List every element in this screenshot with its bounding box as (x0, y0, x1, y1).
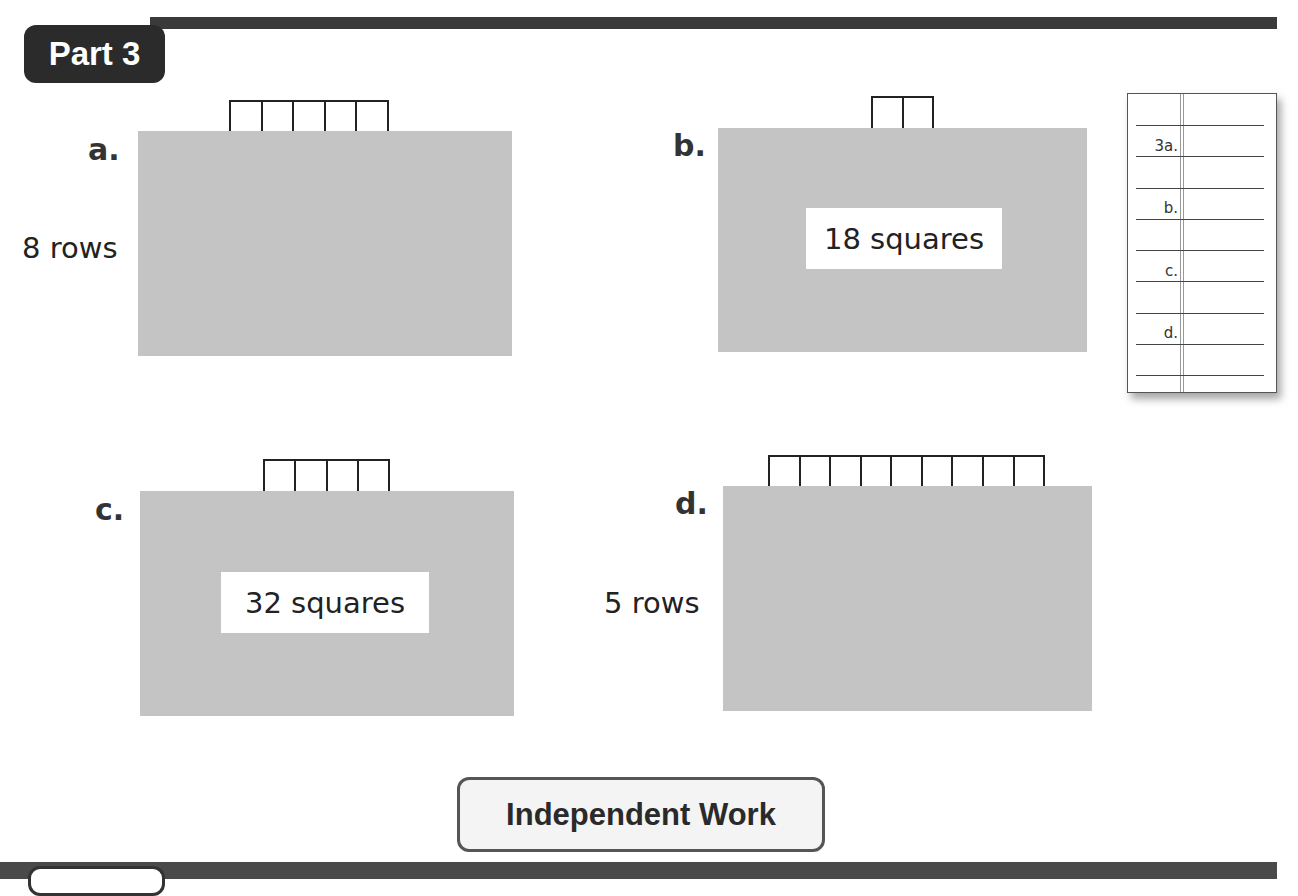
footer-rule (0, 862, 1277, 879)
answer-line (1136, 344, 1264, 345)
problem-a-rows-label: 8 rows (22, 231, 118, 265)
independent-work-heading: Independent Work (457, 777, 825, 852)
answer-label-3a: 3a. (1128, 137, 1178, 155)
problem-c-squares (263, 459, 390, 492)
problem-a-squares (229, 100, 389, 132)
problem-d-rectangle (723, 486, 1092, 711)
answer-line (1136, 156, 1264, 157)
problem-a-rectangle (138, 131, 512, 356)
answer-line (1136, 219, 1264, 220)
problem-b-squares-count: 18 squares (806, 208, 1002, 269)
next-part-tab (28, 866, 165, 896)
unit-square (799, 457, 830, 488)
unit-square (263, 461, 294, 492)
unit-square (871, 98, 902, 129)
unit-square (292, 102, 324, 132)
unit-square (829, 457, 860, 488)
unit-square (1013, 457, 1046, 488)
unit-square (357, 461, 390, 492)
unit-square (324, 102, 356, 132)
header-rule (150, 17, 1277, 29)
answer-label-c: c. (1128, 262, 1178, 280)
unit-square (326, 461, 357, 492)
problem-c-squares-count: 32 squares (221, 572, 429, 633)
problem-b-squares (871, 96, 934, 129)
answer-line (1136, 188, 1264, 189)
answer-label-d: d. (1128, 324, 1178, 342)
unit-square (261, 102, 293, 132)
answer-sheet-margin (1180, 94, 1184, 392)
problem-b-label: b. (673, 128, 706, 163)
unit-square (860, 457, 891, 488)
problem-a-label: a. (88, 132, 120, 167)
unit-square (355, 102, 389, 132)
answer-line (1136, 125, 1264, 126)
part-tab: Part 3 (24, 25, 165, 83)
unit-square (890, 457, 921, 488)
unit-square (229, 102, 261, 132)
answer-label-b: b. (1128, 199, 1178, 217)
answer-line (1136, 375, 1264, 376)
unit-square (982, 457, 1013, 488)
problem-d-label: d. (675, 486, 708, 521)
answer-line (1136, 313, 1264, 314)
unit-square (902, 98, 935, 129)
unit-square (921, 457, 952, 488)
problem-d-rows-label: 5 rows (604, 586, 700, 620)
unit-square (951, 457, 982, 488)
problem-d-squares (768, 455, 1045, 488)
problem-c-label: c. (95, 492, 124, 527)
unit-square (294, 461, 325, 492)
unit-square (768, 457, 799, 488)
answer-sheet: 3a. b. c. d. (1127, 93, 1277, 393)
answer-line (1136, 281, 1264, 282)
answer-line (1136, 250, 1264, 251)
